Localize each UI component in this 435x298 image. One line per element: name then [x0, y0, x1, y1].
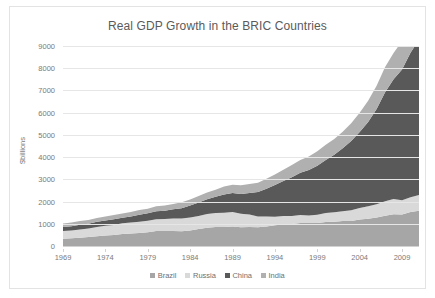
area-series-china — [63, 46, 419, 231]
x-axis-tick-mark — [105, 249, 106, 252]
x-axis-tick-mark — [360, 249, 361, 252]
gridline — [63, 224, 419, 225]
x-axis-labels: 196919741979198419891994199920042009 — [63, 249, 419, 265]
x-axis-tick-mark — [317, 249, 318, 252]
y-axis-tick-label: 2000 — [38, 197, 55, 206]
x-axis-tick-mark — [148, 249, 149, 252]
y-axis-labels: 0100020003000400050006000700080009000 — [10, 46, 59, 246]
x-axis-tick-mark — [233, 249, 234, 252]
x-axis-tick-label: 1994 — [267, 253, 284, 262]
legend-item-brazil[interactable]: Brazil — [150, 271, 176, 280]
x-axis-tick-label: 2009 — [394, 253, 411, 262]
y-axis-tick-label: 4000 — [38, 153, 55, 162]
legend-swatch-icon — [185, 273, 190, 278]
y-axis-tick-label: 7000 — [38, 86, 55, 95]
y-axis-tick-label: 1000 — [38, 219, 55, 228]
x-axis-tick-mark — [190, 249, 191, 252]
legend-item-china[interactable]: China — [225, 271, 252, 280]
y-axis-tick-label: 8000 — [38, 64, 55, 73]
y-axis-tick-label: 0 — [51, 242, 55, 251]
gridline — [63, 68, 419, 69]
gridline — [63, 46, 419, 47]
plot-area — [63, 46, 419, 246]
x-axis-tick-label: 1984 — [182, 253, 199, 262]
legend-label: Russia — [193, 271, 216, 280]
x-axis-line — [63, 246, 419, 247]
legend-label: Brazil — [158, 271, 177, 280]
gridline — [63, 135, 419, 136]
legend-item-india[interactable]: India — [261, 271, 285, 280]
y-axis-tick-label: 9000 — [38, 42, 55, 51]
x-axis-tick-label: 1974 — [97, 253, 114, 262]
chart-legend: BrazilRussiaChinaIndia — [10, 271, 425, 280]
y-axis-tick-label: 3000 — [38, 175, 55, 184]
x-axis-tick-mark — [402, 249, 403, 252]
gridline — [63, 202, 419, 203]
x-axis-tick-label: 1969 — [55, 253, 72, 262]
x-axis-tick-label: 1979 — [139, 253, 156, 262]
gridline — [63, 157, 419, 158]
x-axis-tick-label: 1999 — [309, 253, 326, 262]
x-axis-tick-label: 2004 — [351, 253, 368, 262]
x-axis-tick-mark — [275, 249, 276, 252]
legend-swatch-icon — [225, 273, 230, 278]
stacked-area-series — [63, 46, 419, 246]
gridline — [63, 179, 419, 180]
legend-item-russia[interactable]: Russia — [185, 271, 215, 280]
legend-swatch-icon — [261, 273, 266, 278]
chart-title: Real GDP Growth in the BRIC Countries — [10, 19, 425, 33]
legend-swatch-icon — [150, 273, 155, 278]
x-axis-tick-mark — [63, 249, 64, 252]
legend-label: India — [269, 271, 285, 280]
y-axis-tick-label: 5000 — [38, 130, 55, 139]
legend-label: China — [232, 271, 252, 280]
chart-figure: Real GDP Growth in the BRIC Countries $b… — [9, 6, 426, 289]
gridline — [63, 113, 419, 114]
gridline — [63, 90, 419, 91]
x-axis-tick-label: 1989 — [224, 253, 241, 262]
y-axis-tick-label: 6000 — [38, 108, 55, 117]
